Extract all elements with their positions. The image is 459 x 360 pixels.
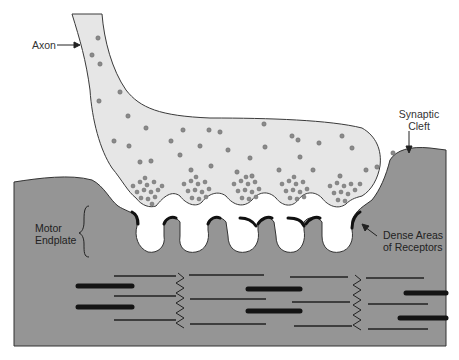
- dense-areas-label-line2: of Receptors: [383, 241, 443, 253]
- motor-endplate-label-line1: Motor: [35, 222, 76, 234]
- dense-areas-label: Dense Areas of Receptors: [383, 229, 443, 253]
- synaptic-cleft-label-line2: Cleft: [391, 120, 447, 132]
- axon-label: Axon: [32, 39, 56, 51]
- motor-endplate-label-line2: Endplate: [35, 234, 76, 246]
- nmj-diagram: [0, 0, 459, 360]
- synaptic-cleft-label-line1: Synaptic: [391, 108, 447, 120]
- motor-endplate-label: Motor Endplate: [35, 222, 76, 246]
- axon-terminal: [72, 14, 380, 207]
- dense-areas-label-line1: Dense Areas: [383, 229, 443, 241]
- synaptic-cleft-label: Synaptic Cleft: [391, 108, 447, 132]
